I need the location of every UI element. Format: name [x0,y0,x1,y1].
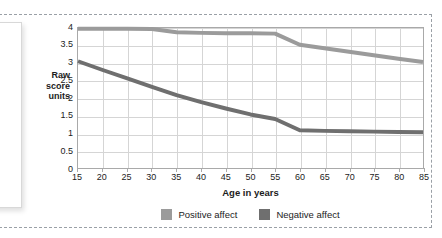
series-layer [78,28,423,168]
y-axis-tick-label: 4 [49,23,73,32]
y-axis-tick-label: 2 [49,94,73,103]
y-axis-tick-label: 0.5 [49,147,73,156]
chart-figure: Raw score units 00.511.522.533.54 152025… [0,14,432,228]
chart-legend: Positive affectNegative affect [77,206,424,222]
legend-item[interactable]: Positive affect [161,209,237,220]
x-axis-tick-label: 85 [409,172,439,182]
y-axis-tick-label: 1 [49,129,73,138]
y-axis-tick-label: 3 [49,58,73,67]
legend-swatch-icon [161,209,172,220]
y-axis-tick-label: 2.5 [49,76,73,85]
legend-swatch-icon [259,209,270,220]
y-axis-tick-label: 3.5 [49,40,73,49]
plot-area [77,27,424,169]
legend-item[interactable]: Negative affect [259,209,339,220]
legend-label: Negative affect [276,209,339,220]
plot-inner [78,28,423,168]
legend-label: Positive affect [178,209,237,220]
series-line-positive-affect [78,29,423,62]
x-axis-tick-labels: 152025303540455055606570758085 [77,172,424,186]
y-axis-tick-label: 1.5 [49,111,73,120]
x-axis-title: Age in years [77,187,424,198]
page-root: Raw score units 00.511.522.533.54 152025… [0,0,442,238]
y-axis-tick-labels: 00.511.522.533.54 [47,27,73,169]
series-line-negative-affect [78,61,423,132]
